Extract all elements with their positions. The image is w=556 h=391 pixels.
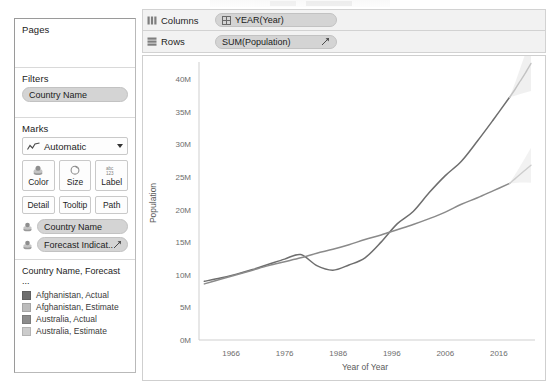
y-axis-tick-label: 0M: [180, 336, 191, 345]
marks-card-title: Marks: [15, 118, 135, 137]
mark-pill-forecast-label: Forecast Indicat..: [44, 240, 113, 250]
marks-label-button[interactable]: abc 123 Label: [95, 160, 128, 191]
mark-pill-country-name-row: Country Name: [22, 219, 128, 234]
tableau-worksheet-window: Pages Filters Country Name Marks: [0, 0, 556, 391]
filters-card: Filters Country Name: [15, 68, 135, 118]
pages-shelf-dropzone[interactable]: [22, 38, 128, 60]
marks-path-label: Path: [103, 200, 121, 210]
x-axis-tick-label: 1976: [276, 349, 294, 358]
plot-wrapper: 0M5M10M15M20M25M30M35M40MPopulation19661…: [143, 56, 545, 380]
y-axis-tick-label: 35M: [175, 108, 191, 117]
y-axis-title: Population: [148, 183, 158, 223]
marks-tooltip-label: Tooltip: [63, 200, 88, 210]
visualization-pane[interactable]: 0M5M10M15M20M25M30M35M40MPopulation19661…: [142, 55, 546, 381]
columns-shelf[interactable]: Columns YEAR(Year): [142, 9, 546, 31]
mark-type-label: Automatic: [40, 141, 117, 152]
mark-type-selector[interactable]: Automatic: [22, 137, 128, 155]
mark-pill-country-name[interactable]: Country Name: [37, 219, 128, 234]
worksheet-area: Columns YEAR(Year): [142, 9, 546, 381]
columns-shelf-label-group: Columns: [147, 15, 209, 26]
left-sidebar: Pages Filters Country Name Marks: [14, 18, 136, 373]
marks-size-button[interactable]: Size: [59, 160, 92, 191]
marks-label-label: Label: [101, 177, 122, 187]
svg-text:123: 123: [106, 171, 114, 176]
columns-pill-year[interactable]: YEAR(Year): [215, 13, 337, 27]
chrome-ghost-a: [270, 1, 296, 6]
marks-color-button[interactable]: Color: [22, 160, 55, 191]
x-axis-tick-label: 2006: [436, 349, 454, 358]
legend-item[interactable]: Afghanistan, Estimate: [15, 301, 135, 313]
color-swatch-icon: [22, 222, 33, 232]
marks-card-body: Automatic Color: [15, 137, 135, 259]
marks-path-button[interactable]: Path: [95, 196, 128, 214]
legend-swatch: [22, 291, 31, 300]
filter-pill-label: Country Name: [29, 90, 87, 100]
legend-item-label: Afghanistan, Estimate: [36, 302, 119, 312]
y-axis-tick-label: 15M: [175, 238, 191, 247]
filter-pill-country-name[interactable]: Country Name: [22, 87, 128, 102]
rows-shelf-label: Rows: [161, 36, 185, 47]
y-axis-tick-label: 25M: [175, 173, 191, 182]
forecast-icon: [321, 37, 330, 46]
rows-pill-population-label: SUM(Population): [222, 37, 291, 47]
y-axis-tick-label: 20M: [175, 206, 191, 215]
rows-shelf-icon: [147, 37, 157, 46]
pages-card-title: Pages: [15, 19, 135, 38]
columns-shelf-pills: YEAR(Year): [215, 13, 337, 27]
mark-pill-forecast-row: Forecast Indicat..: [22, 237, 128, 252]
abc-123-label-icon: abc 123: [105, 165, 119, 176]
y-axis-tick-label: 10M: [175, 271, 191, 280]
pages-shelf[interactable]: [15, 38, 135, 67]
legend-swatch: [22, 303, 31, 312]
marks-size-label: Size: [67, 177, 84, 187]
x-axis-tick-label: 1966: [222, 349, 240, 358]
mark-pill-forecast-indicator[interactable]: Forecast Indicat..: [37, 237, 128, 252]
legend-item-label: Australia, Actual: [36, 314, 97, 324]
filters-shelf-dropzone[interactable]: [22, 102, 128, 110]
forecast-icon: [113, 240, 122, 249]
x-axis-tick-label: 2016: [490, 349, 508, 358]
columns-shelf-label: Columns: [161, 15, 199, 26]
legend-swatch: [22, 315, 31, 324]
x-axis-tick-label: 1986: [329, 349, 347, 358]
y-axis-tick-label: 30M: [175, 140, 191, 149]
marks-button-row-1: Color Size: [22, 160, 128, 191]
legend-item[interactable]: Australia, Estimate: [15, 325, 135, 337]
marks-detail-label: Detail: [27, 200, 49, 210]
rows-pill-population[interactable]: SUM(Population): [215, 35, 337, 49]
rows-shelf-label-group: Rows: [147, 36, 209, 47]
marks-color-label: Color: [28, 177, 48, 187]
marks-button-row-2: Detail Tooltip Path: [22, 196, 128, 214]
marks-tooltip-button[interactable]: Tooltip: [59, 196, 92, 214]
legend-item[interactable]: Australia, Actual: [15, 313, 135, 325]
legend-item-label: Afghanistan, Actual: [36, 290, 109, 300]
chrome-ghost-b: [306, 1, 352, 6]
color-palette-icon: [32, 165, 44, 176]
filters-shelf[interactable]: Country Name: [15, 87, 135, 117]
color-legend-card: Country Name, Forecast ... Afghanistan, …: [15, 260, 135, 337]
x-axis-tick-label: 1996: [383, 349, 401, 358]
legend-swatch: [22, 327, 31, 336]
plot-background: [199, 62, 535, 340]
color-swatch-icon: [22, 240, 33, 250]
legend-item[interactable]: Afghanistan, Actual: [15, 289, 135, 301]
filters-card-title: Filters: [15, 68, 135, 87]
marks-detail-button[interactable]: Detail: [22, 196, 55, 214]
rows-shelf[interactable]: Rows SUM(Population): [142, 31, 546, 53]
legend-item-label: Australia, Estimate: [36, 326, 107, 336]
marks-card: Marks Automatic: [15, 118, 135, 260]
color-legend-title: Country Name, Forecast ...: [15, 260, 135, 289]
columns-shelf-icon: [147, 16, 157, 25]
rows-shelf-pills: SUM(Population): [215, 35, 337, 49]
chevron-down-icon[interactable]: [117, 144, 123, 148]
x-axis-title: Year of Year: [342, 362, 388, 372]
window-chrome-remnant: [210, 0, 390, 7]
y-axis-tick-label: 40M: [175, 75, 191, 84]
line-chart: 0M5M10M15M20M25M30M35M40MPopulation19661…: [143, 56, 545, 380]
date-pill-icon: [222, 16, 231, 25]
y-axis-tick-label: 5M: [180, 303, 191, 312]
size-icon: [69, 165, 81, 176]
columns-pill-year-label: YEAR(Year): [235, 15, 284, 25]
pages-card: Pages: [15, 19, 135, 68]
line-mark-icon: [27, 142, 40, 151]
